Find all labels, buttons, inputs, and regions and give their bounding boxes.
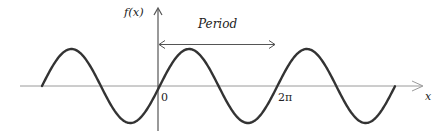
period-label: Period bbox=[197, 17, 237, 31]
two-pi-tick-label: 2π bbox=[278, 91, 292, 104]
y-axis bbox=[154, 8, 162, 131]
y-axis-label: f(x) bbox=[123, 5, 144, 19]
period-arrow bbox=[159, 41, 275, 49]
sine-wave-diagram: Period f(x) x 0 2π bbox=[0, 0, 448, 138]
x-axis-label: x bbox=[425, 90, 432, 103]
origin-tick-label: 0 bbox=[161, 91, 168, 104]
